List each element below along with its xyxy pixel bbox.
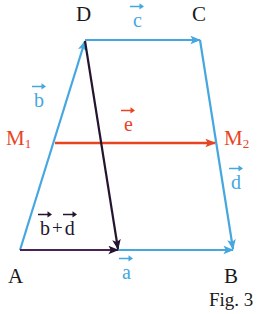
vector-label-b-plus-d-first: b	[40, 218, 50, 238]
vector-label-c: c	[133, 6, 142, 26]
vertex-label-B: B	[224, 266, 238, 287]
vector-label-b-plus-d-operator: +	[50, 218, 65, 237]
figure-3-vector-diagram: D C A B M1 M2 a b	[0, 0, 278, 314]
point-label-M1: M1	[6, 128, 31, 150]
figure-caption: Fig. 3	[209, 290, 253, 309]
vector-label-d-letter: d	[231, 172, 241, 192]
vertex-label-D: D	[76, 4, 91, 25]
vector-label-b-plus-d-second: d	[65, 218, 75, 238]
vector-label-a-letter: a	[122, 262, 131, 282]
vector-label-b-letter: b	[34, 90, 44, 110]
point-label-M1-letter: M	[6, 126, 25, 150]
point-label-M2-letter: M	[224, 126, 243, 150]
point-label-M2: M2	[224, 128, 249, 150]
vector-label-c-letter: c	[133, 10, 142, 30]
vector-label-e-letter: e	[124, 114, 133, 134]
vertex-label-C: C	[192, 4, 206, 25]
point-label-M2-subscript: 2	[243, 136, 250, 151]
vector-label-b: b	[34, 86, 44, 106]
vector-b-plus-d-diagonal	[85, 41, 118, 249]
vector-label-e: e	[124, 110, 133, 130]
vector-label-b-plus-d: b + d	[40, 214, 75, 234]
point-label-M1-subscript: 1	[25, 136, 32, 151]
vector-label-d: d	[231, 168, 241, 188]
vector-label-a: a	[122, 258, 131, 278]
vertex-label-A: A	[8, 266, 23, 287]
